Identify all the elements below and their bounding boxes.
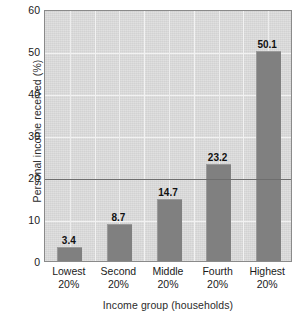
x-tick-label-line1: Lowest [52, 265, 85, 277]
x-tick-label: Lowest20% [52, 265, 85, 291]
x-tick-label: Second20% [101, 265, 137, 291]
horizontal-gridline [45, 53, 291, 54]
x-tick-label-line1: Middle [153, 265, 184, 277]
x-axis-title: Income group (households) [44, 299, 292, 311]
y-tick-label: 10 [20, 214, 40, 226]
x-tick-label-line2: 20% [249, 278, 285, 291]
y-tick-label: 20 [20, 172, 40, 184]
x-axis-tick-labels: Lowest20%Second20%Middle20%Fourth20%High… [44, 265, 292, 295]
bar [107, 224, 132, 261]
x-tick-label: Middle20% [153, 265, 184, 291]
x-tick-label-line2: 20% [153, 278, 184, 291]
x-tick-label-line2: 20% [52, 278, 85, 291]
y-tick-label: 40 [20, 88, 40, 100]
bar [57, 247, 82, 261]
vertical-gridline [243, 11, 244, 261]
bar-value-label: 23.2 [208, 152, 227, 163]
x-tick-label: Highest20% [249, 265, 285, 291]
bar [157, 199, 182, 261]
plot-area [44, 10, 292, 262]
y-tick-label: 0 [20, 256, 40, 268]
x-tick-label: Fourth20% [202, 265, 232, 291]
bar-value-label: 50.1 [257, 39, 276, 50]
x-tick-label-line2: 20% [202, 278, 232, 291]
vertical-gridline-minor [70, 11, 71, 261]
x-tick-label-line1: Second [101, 265, 137, 277]
y-tick-label: 30 [20, 130, 40, 142]
bar-value-label: 8.7 [111, 212, 125, 223]
bar-value-label: 3.4 [62, 235, 76, 246]
reference-line-20 [45, 179, 291, 180]
horizontal-gridline [45, 95, 291, 96]
bar-value-label: 14.7 [158, 187, 177, 198]
x-tick-label-line2: 20% [101, 278, 137, 291]
y-tick-label: 50 [20, 46, 40, 58]
vertical-gridline [194, 11, 195, 261]
bar [256, 51, 281, 261]
horizontal-gridline [45, 137, 291, 138]
bar-chart: Personal income received (%) 01020304050… [0, 0, 304, 317]
x-tick-label-line1: Fourth [202, 265, 232, 277]
vertical-gridline [95, 11, 96, 261]
vertical-gridline [144, 11, 145, 261]
y-axis-tick-labels: 0102030405060 [20, 10, 40, 262]
y-tick-label: 60 [20, 4, 40, 16]
x-tick-label-line1: Highest [249, 265, 285, 277]
